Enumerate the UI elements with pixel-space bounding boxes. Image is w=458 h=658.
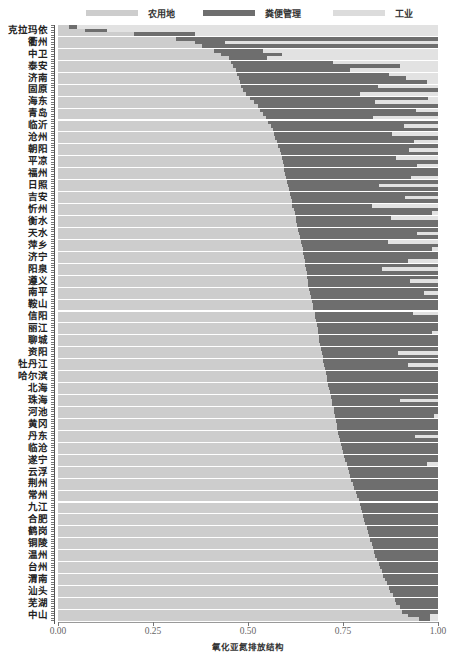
- bar-segment-agri: [58, 295, 311, 299]
- bar-segment-manure: [382, 569, 438, 573]
- stacked-bar: [58, 581, 438, 585]
- y-tick-label: 中卫: [28, 49, 48, 59]
- bar-group: [58, 359, 438, 371]
- bar-segment-manure: [266, 116, 372, 120]
- y-tick-label: 衡水: [28, 216, 48, 226]
- bar-segment-manure: [343, 450, 438, 454]
- y-tick-label: 聊城: [28, 335, 48, 345]
- bar-segment-agri: [58, 247, 303, 251]
- y-tick-label: 芜湖: [28, 598, 48, 608]
- x-tick-label: 0.25: [145, 626, 162, 636]
- bar-segment-agri: [58, 378, 327, 382]
- bar-segment-manure: [236, 68, 350, 72]
- legend-label: 粪便管理: [265, 7, 301, 20]
- bar-group: [58, 514, 438, 526]
- stacked-bar: [58, 223, 438, 227]
- bar-group: [58, 598, 438, 610]
- bar-group: [58, 335, 438, 347]
- stacked-bar: [58, 176, 438, 180]
- bar-segment-agri: [58, 56, 229, 60]
- bar-segment-agri: [58, 187, 289, 191]
- bar-segment-agri: [58, 104, 258, 108]
- bar-segment-manure: [327, 378, 438, 382]
- bar-group: [58, 312, 438, 324]
- bar-segment-manure: [387, 581, 438, 585]
- y-tick-label: 云浮: [28, 467, 48, 477]
- y-tick-label: 常州: [28, 490, 48, 500]
- stacked-bar: [58, 438, 438, 442]
- bar-segment-manure: [337, 426, 438, 430]
- bar-group: [58, 610, 438, 622]
- y-tick-label: 合肥: [28, 514, 48, 524]
- bar-segment-industry: [427, 80, 438, 84]
- bar-segment-manure: [273, 128, 438, 132]
- bar-segment-manure: [281, 152, 438, 156]
- stacked-bar: [58, 152, 438, 156]
- stacked-bar: [58, 355, 438, 359]
- bar-group: [58, 288, 438, 300]
- legend-label: 工业: [395, 7, 413, 20]
- bar-segment-agri: [58, 116, 266, 120]
- bar-segment-agri: [58, 343, 320, 347]
- bar-group: [58, 252, 438, 264]
- stacked-bar: [58, 426, 438, 430]
- bar-segment-manure: [350, 474, 438, 478]
- stacked-bar: [58, 283, 438, 287]
- stacked-bar: [58, 558, 438, 562]
- stacked-bar: [58, 164, 438, 168]
- bar-segment-manure: [305, 259, 408, 263]
- bar-segment-manure: [240, 80, 426, 84]
- bar-segment-manure: [318, 331, 432, 335]
- stacked-bar: [58, 235, 438, 239]
- stacked-bar: [58, 510, 438, 514]
- y-tick-label: 温州: [28, 550, 48, 560]
- y-tick-label: 阳泉: [28, 264, 48, 274]
- x-tick-label: 0.75: [335, 626, 352, 636]
- stacked-bar: [58, 331, 438, 335]
- stacked-bar: [58, 414, 438, 418]
- y-tick-label: 台州: [28, 562, 48, 572]
- y-tick-label: 固原: [28, 84, 48, 94]
- bar-segment-manure: [325, 367, 438, 371]
- bar-group: [58, 192, 438, 204]
- stacked-bar: [58, 605, 438, 609]
- bar-segment-manure: [313, 307, 438, 311]
- bar-segment-manure: [307, 271, 438, 275]
- stacked-bar: [58, 44, 438, 48]
- stacked-bar: [58, 80, 438, 84]
- stacked-bar: [58, 486, 438, 490]
- y-tick-label: 克拉玛依: [8, 25, 48, 35]
- y-tick-label: 沧州: [28, 132, 48, 142]
- bar-segment-manure: [246, 92, 360, 96]
- bar-segment-manure: [297, 223, 438, 227]
- bar-segment-agri: [58, 283, 308, 287]
- bar-group: [58, 109, 438, 121]
- bar-segment-manure: [289, 187, 438, 191]
- legend-item-industry: 工业: [333, 6, 413, 20]
- bar-segment-agri: [58, 199, 292, 203]
- bar-group: [58, 419, 438, 431]
- bar-segment-agri: [58, 355, 323, 359]
- bar-segment-manure: [365, 522, 438, 526]
- stacked-bar: [58, 402, 438, 406]
- stacked-bar: [58, 319, 438, 323]
- bar-segment-manure: [292, 199, 438, 203]
- bar-segment-manure: [335, 414, 434, 418]
- stacked-bar: [58, 367, 438, 371]
- bar-group: [58, 73, 438, 85]
- bar-segment-agri: [58, 32, 134, 36]
- bar-segment-agri: [58, 569, 382, 573]
- y-tick-label: 北海: [28, 383, 48, 393]
- bar-segment-manure: [134, 32, 195, 36]
- bar-group: [58, 479, 438, 491]
- stacked-bar: [58, 32, 438, 36]
- stacked-bar: [58, 92, 438, 96]
- bar-segment-industry: [350, 68, 438, 72]
- bar-group: [58, 168, 438, 180]
- bar-group: [58, 443, 438, 455]
- bar-group: [58, 407, 438, 419]
- bar-group: [58, 395, 438, 407]
- bar-group: [58, 455, 438, 467]
- bar-segment-agri: [58, 581, 387, 585]
- bar-segment-agri: [58, 152, 281, 156]
